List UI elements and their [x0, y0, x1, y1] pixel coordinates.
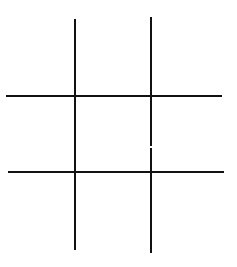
cell-0-0[interactable] — [8, 19, 74, 95]
cell-2-1[interactable] — [77, 174, 150, 250]
cell-0-2[interactable] — [153, 19, 222, 95]
cell-1-1[interactable] — [77, 98, 150, 171]
cell-2-0[interactable] — [8, 174, 74, 250]
cell-1-2[interactable] — [153, 98, 222, 171]
cell-2-2[interactable] — [153, 174, 222, 250]
cell-0-1[interactable] — [77, 19, 150, 95]
cell-1-0[interactable] — [8, 98, 74, 171]
tic-tac-toe-board — [0, 0, 237, 267]
